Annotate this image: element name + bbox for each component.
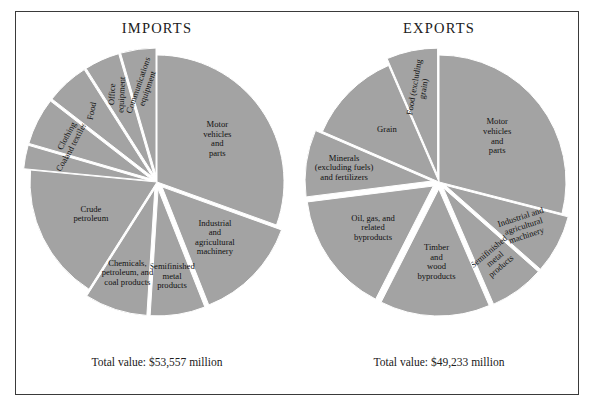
- pie-slice-label: Grain: [377, 124, 397, 134]
- pie-slice-label-line: and: [211, 138, 224, 148]
- pie-slice-label-line: wood: [427, 261, 447, 271]
- pie-slice-label-line: and: [430, 252, 443, 262]
- pie-slice-label-line: Grain: [377, 124, 397, 134]
- pie-slice-label-line: Minerals: [329, 153, 360, 163]
- pie-slice-label-line: Motor: [207, 119, 229, 129]
- pie-slice-label-line: parts: [489, 145, 506, 155]
- panel-total-exports: Total value: $49,233 million: [298, 356, 580, 368]
- pie-slice-label-line: petroleum: [73, 213, 108, 223]
- pie-slice-label: Chemicals,petroleum, andcoal products: [102, 258, 154, 287]
- pie-slice-label-line: parts: [209, 148, 226, 158]
- pie-slice-label-line: Crude: [80, 204, 101, 214]
- pie-slice-label-line: Industrial: [198, 218, 232, 228]
- pie-slice-label-line: Timber: [424, 242, 449, 252]
- pie-slice-label-line: and fertilizers: [320, 172, 368, 182]
- pie-slice-label-line: coal products: [104, 277, 151, 287]
- pie-slice-label-line: related: [361, 222, 385, 232]
- figure-frame: IMPORTS MotorvehiclesandpartsIndustriala…: [15, 11, 579, 395]
- pie-slice-label-line: petroleum, and: [102, 267, 154, 277]
- pie-slice-label-line: Motor: [486, 116, 508, 126]
- pie-slice-label-line: Semifinished: [149, 261, 195, 271]
- panel-total-imports: Total value: $53,557 million: [16, 356, 298, 368]
- pie-slice-label-line: and: [491, 136, 504, 146]
- pie-slice-label-line: agricultural: [195, 237, 235, 247]
- pie-slice-label-line: products: [157, 280, 187, 290]
- pie-slice-label-line: and: [209, 227, 222, 237]
- chart-panel-imports: IMPORTS MotorvehiclesandpartsIndustriala…: [16, 12, 298, 396]
- pie-slice-label-line: metal: [162, 271, 182, 281]
- pie-slice-label-line: vehicles: [483, 126, 512, 136]
- pie-chart-exports: MotorvehiclesandpartsIndustrial andagric…: [298, 34, 580, 334]
- pie-slice-label-line: machinery: [197, 246, 234, 256]
- pie-slice-label-line: Oil, gas, and: [351, 213, 395, 223]
- pie-chart-imports: MotorvehiclesandpartsIndustrialandagricu…: [16, 34, 298, 334]
- pie-slice-label-line: vehicles: [203, 129, 232, 139]
- pie-slice-label-line: byproducts: [417, 271, 456, 281]
- pie-slice-label-line: Chemicals,: [108, 258, 146, 268]
- chart-panel-exports: EXPORTS MotorvehiclesandpartsIndustrial …: [298, 12, 580, 396]
- pie-slice-label: Industrialandagriculturalmachinery: [195, 218, 235, 257]
- pie-slice-label-line: byproducts: [354, 232, 393, 242]
- pie-slice-label-line: (excluding fuels): [315, 162, 374, 172]
